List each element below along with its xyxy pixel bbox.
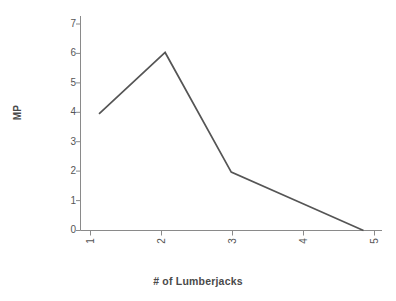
x-tick-label: 2 [153,236,171,252]
chart-figure: MP 0 1 2 3 4 5 6 7 [0,0,396,301]
x-tick-label-text: 4 [299,238,309,244]
x-tick-label: 3 [224,236,242,252]
x-axis-tick-labels: 1 2 3 4 5 [0,0,396,301]
x-tick-label-text: 1 [86,238,96,244]
x-tick-label-text: 5 [370,238,380,244]
x-tick-label: 1 [82,236,100,252]
x-tick-label-text: 2 [157,238,167,244]
x-tick-label: 4 [295,236,313,252]
x-tick-label-text: 3 [228,238,238,244]
x-axis-title: # of Lumberjacks [0,275,396,287]
x-tick-label: 5 [366,236,384,252]
